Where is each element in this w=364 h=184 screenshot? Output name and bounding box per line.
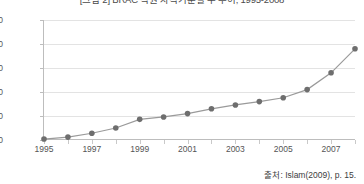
y-tick-label: 500 [0,112,3,120]
data-point-marker [137,117,143,123]
y-tick-label: 2000 [0,40,3,48]
plot-area: 05001000150020002500 1995199719992001200… [44,20,355,140]
x-tick-mark [259,140,260,144]
data-point-marker [113,125,119,131]
data-point-marker [65,134,71,140]
data-series-line [44,20,355,140]
y-tick-label: 1000 [0,88,3,96]
data-point-marker [161,114,167,120]
data-point-marker [280,95,286,101]
y-tick-label: 1500 [0,64,3,72]
data-point-marker [89,130,95,136]
data-point-marker [209,106,215,112]
series-line [44,49,355,139]
x-tick-label: 2005 [263,144,303,154]
chart-figure: [그림 2] BRAC 직원 자격기준별 수 추이, 1995-2008 050… [0,0,364,184]
x-tick-label: 2007 [311,144,351,154]
data-point-marker [304,87,310,93]
data-point-marker [233,102,239,108]
x-tick-label: 2001 [168,144,208,154]
y-tick-label: 0 [0,136,3,144]
x-tick-mark [116,140,117,144]
x-tick-label: 1995 [24,144,64,154]
x-tick-mark [211,140,212,144]
data-point-marker [257,99,263,105]
x-tick-mark [307,140,308,144]
y-tick-label: 2500 [0,16,3,24]
x-tick-label: 2003 [215,144,255,154]
x-tick-mark [355,140,356,144]
data-point-marker [185,111,191,117]
x-tick-label: 1999 [120,144,160,154]
x-tick-mark [164,140,165,144]
x-tick-mark [68,140,69,144]
x-tick-label: 1997 [72,144,112,154]
source-note: 출처: Islam(2009), p. 15. [264,168,356,180]
data-point-marker [328,70,334,76]
data-point-marker [352,46,358,52]
chart-title: [그림 2] BRAC 직원 자격기준별 수 추이, 1995-2008 [0,0,364,6]
data-point-marker [41,136,47,142]
